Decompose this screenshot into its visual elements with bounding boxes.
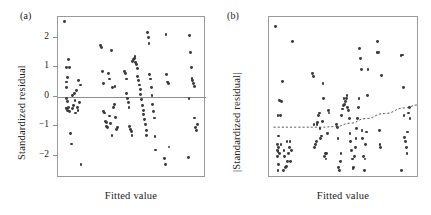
data-point	[408, 106, 411, 109]
data-point	[144, 123, 147, 126]
data-point	[73, 92, 76, 95]
data-point	[68, 110, 71, 113]
y-axis-tick-label: 2	[27, 31, 49, 41]
data-point	[196, 123, 199, 126]
data-point	[354, 146, 357, 149]
data-point	[114, 116, 117, 119]
data-point	[146, 31, 149, 34]
data-point	[124, 72, 127, 75]
data-point	[74, 99, 77, 102]
data-point	[66, 76, 69, 79]
data-point	[134, 55, 137, 58]
data-point	[140, 98, 143, 101]
data-point	[321, 120, 324, 123]
data-point	[148, 73, 151, 76]
data-point	[141, 104, 144, 107]
data-point	[142, 109, 145, 112]
data-point	[128, 106, 131, 109]
data-point	[348, 117, 351, 120]
data-point	[139, 93, 142, 96]
data-point	[108, 78, 111, 81]
data-point	[151, 103, 154, 106]
data-point	[102, 82, 105, 85]
data-point	[188, 34, 191, 37]
data-point	[189, 51, 192, 54]
data-point	[125, 92, 128, 95]
data-point	[127, 101, 130, 104]
data-point	[148, 42, 151, 45]
data-point	[378, 129, 381, 132]
y-axis-tick	[53, 96, 57, 97]
data-point	[338, 169, 341, 172]
data-point	[149, 78, 152, 81]
data-point	[357, 106, 360, 109]
data-point	[110, 49, 113, 52]
data-point	[112, 106, 115, 109]
panel-a: (a) Standardized residual −2−1012 Fitted…	[0, 0, 215, 215]
data-point	[287, 152, 290, 155]
data-point	[363, 169, 366, 172]
data-point	[164, 163, 167, 166]
data-point	[135, 63, 138, 66]
data-point	[108, 115, 111, 118]
data-point	[70, 143, 73, 146]
data-point	[147, 36, 150, 39]
data-point	[136, 67, 139, 70]
data-point	[290, 149, 293, 152]
y-axis-tick	[53, 125, 57, 126]
data-point	[101, 70, 104, 73]
data-point	[152, 110, 155, 113]
data-point	[278, 152, 281, 155]
data-point	[326, 132, 329, 135]
data-point	[69, 132, 72, 135]
data-point	[63, 20, 66, 23]
data-point	[193, 117, 196, 120]
panel-b-label: (b)	[227, 10, 239, 21]
zero-reference-line	[58, 97, 206, 98]
data-point	[137, 79, 140, 82]
data-point	[74, 112, 77, 115]
data-point	[193, 85, 196, 88]
panel-a-xlabel: Fitted value	[57, 190, 205, 201]
data-point	[139, 88, 142, 91]
data-point	[405, 146, 408, 149]
y-axis-tick-label: 0	[27, 90, 49, 100]
y-axis-tick-label: −2	[27, 149, 49, 159]
data-point	[65, 86, 68, 89]
data-point	[80, 163, 83, 166]
data-point	[359, 57, 362, 60]
y-axis-tick	[53, 66, 57, 67]
data-point	[138, 84, 141, 87]
data-point	[190, 66, 193, 69]
data-point	[72, 104, 75, 107]
data-point	[283, 155, 286, 158]
panel-b-ylabel: |Standardized residual|	[231, 73, 242, 172]
data-point	[65, 81, 68, 84]
data-point	[402, 86, 405, 89]
data-point	[276, 155, 279, 158]
data-point	[344, 100, 347, 103]
data-point	[165, 73, 168, 76]
data-point	[145, 129, 148, 132]
data-point	[128, 125, 131, 128]
data-point	[143, 118, 146, 121]
data-point	[113, 103, 116, 106]
panel-a-plot-area	[57, 16, 205, 177]
data-point	[107, 72, 110, 75]
data-point	[67, 58, 70, 61]
data-point	[103, 112, 106, 115]
data-point	[154, 149, 157, 152]
data-point	[168, 146, 171, 149]
data-point	[68, 66, 71, 69]
y-axis-tick	[53, 155, 57, 156]
panel-b-plot-area	[268, 16, 418, 177]
data-point	[136, 75, 139, 78]
data-point	[66, 100, 69, 103]
data-point	[291, 40, 294, 43]
data-point	[100, 46, 103, 49]
data-point	[163, 157, 166, 160]
data-point	[126, 97, 129, 100]
data-point	[67, 106, 70, 109]
data-point	[109, 122, 112, 125]
data-point	[285, 165, 288, 168]
